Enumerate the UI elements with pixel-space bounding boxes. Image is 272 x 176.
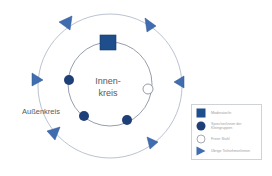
legend-item-free-chair: Freier Stuhl <box>196 134 259 144</box>
moderator-square-icon <box>100 35 116 50</box>
inner-circle-label: Innen- kreis <box>88 75 128 99</box>
inner-circle-label-line2: kreis <box>88 87 128 99</box>
dot-icon <box>196 121 206 131</box>
speaker-dot-icon <box>64 75 74 85</box>
participant-triangle-icon <box>47 127 60 140</box>
legend: Moderator/in Sprecher/innen der Kleingru… <box>191 104 262 160</box>
free-chair-icon <box>143 84 153 94</box>
legend-label: Freier Stuhl <box>211 137 259 142</box>
legend-label: Übrige Teilnehmer/innen <box>211 149 259 154</box>
legend-item-participants: Übrige Teilnehmer/innen <box>196 146 259 156</box>
speaker-dot-icon <box>79 111 89 121</box>
outer-circle-label: Außenkreis <box>22 107 60 116</box>
legend-item-speaker: Sprecher/innen der Kleingruppen <box>196 121 259 131</box>
legend-item-moderator: Moderator/in <box>196 108 259 118</box>
square-icon <box>196 108 206 118</box>
empty-circle-icon <box>196 134 206 144</box>
speaker-dot-icon <box>122 115 132 125</box>
participant-triangle-icon <box>174 76 184 88</box>
legend-label: Sprecher/innen der Kleingruppen <box>211 122 259 131</box>
participant-triangle-icon <box>32 73 43 86</box>
legend-label: Moderator/in <box>211 111 259 116</box>
triangle-icon <box>196 146 206 156</box>
participant-triangle-icon <box>145 18 156 32</box>
inner-circle-label-line1: Innen- <box>88 75 128 87</box>
participant-triangle-icon <box>59 16 72 30</box>
